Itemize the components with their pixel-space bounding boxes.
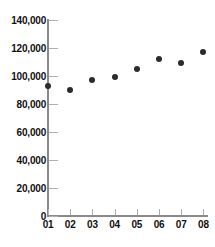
y-axis-tick-label: 120,000 — [11, 43, 46, 54]
x-axis-tick — [92, 209, 93, 215]
y-axis-tick — [49, 188, 58, 189]
y-axis-tick — [49, 160, 58, 161]
data-point — [178, 60, 184, 66]
x-axis-tick-label: 03 — [81, 219, 103, 230]
y-axis-tick-label: 140,000 — [11, 15, 46, 26]
x-axis-tick-label: 06 — [148, 219, 170, 230]
x-axis-tick — [137, 209, 138, 215]
x-axis-tick-label: 04 — [104, 219, 126, 230]
data-point — [89, 77, 95, 83]
y-axis-tick — [49, 132, 58, 133]
x-axis-tick-label: 08 — [192, 219, 214, 230]
y-axis-tick-label: 40,000 — [17, 155, 46, 166]
y-axis-tick-label: 100,000 — [11, 71, 46, 82]
y-axis-tick-label: 20,000 — [17, 183, 46, 194]
x-axis-tick — [70, 209, 71, 215]
y-axis-tick-label: 60,000 — [17, 127, 46, 138]
x-axis-tick-label: 05 — [126, 219, 148, 230]
data-point — [134, 66, 140, 72]
x-axis-tick — [203, 209, 204, 215]
y-axis-tick — [49, 216, 58, 217]
y-axis-tick — [49, 76, 58, 77]
x-axis-tick — [159, 209, 160, 215]
y-axis-tick — [49, 48, 58, 49]
data-point — [112, 74, 118, 80]
x-axis-tick-label: 07 — [170, 219, 192, 230]
data-point — [156, 56, 162, 62]
x-axis-tick — [181, 209, 182, 215]
x-axis-tick — [115, 209, 116, 215]
y-axis-tick — [49, 104, 58, 105]
x-axis-line — [47, 215, 208, 217]
plot-area: 020,00040,00060,00080,000100,000120,0001… — [0, 0, 215, 247]
y-axis-tick — [49, 20, 58, 21]
y-axis-tick-label: 80,000 — [17, 99, 46, 110]
data-point — [45, 83, 51, 89]
scatter-chart: 020,00040,00060,00080,000100,000120,0001… — [0, 0, 215, 247]
x-axis-tick-label: 01 — [37, 219, 59, 230]
data-point — [200, 49, 206, 55]
x-axis-tick — [48, 209, 49, 215]
data-point — [67, 87, 73, 93]
x-axis-tick-label: 02 — [59, 219, 81, 230]
